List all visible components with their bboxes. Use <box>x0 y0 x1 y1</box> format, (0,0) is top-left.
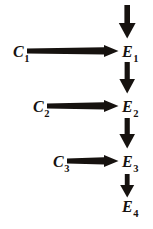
arrow-e2-to-e3 <box>119 118 135 149</box>
node-label-e2: E2 <box>122 99 138 115</box>
node-base-e2: E <box>122 98 133 115</box>
node-base-c2: C <box>33 98 44 115</box>
node-subscript-e4: 4 <box>133 208 138 219</box>
node-base-e4: E <box>122 198 133 215</box>
node-label-c1: C1 <box>13 44 29 60</box>
node-label-e1: E1 <box>122 44 138 60</box>
node-base-e1: E <box>122 43 133 60</box>
node-subscript-e2: 2 <box>133 108 138 119</box>
node-subscript-e1: 1 <box>133 53 138 64</box>
arrow-c1-to-e1 <box>27 45 119 57</box>
node-base-e3: E <box>122 153 133 170</box>
causal-chain-diagram: C1 C2 C3 E1 E2 E3 E4 <box>0 0 153 229</box>
arrow-top-to-e1 <box>119 5 136 39</box>
node-subscript-c1: 1 <box>24 53 29 64</box>
arrow-e3-to-e4 <box>120 174 134 198</box>
arrow-c3-to-e3 <box>67 155 119 167</box>
node-label-e4: E4 <box>122 199 138 215</box>
node-label-c2: C2 <box>33 99 49 115</box>
node-base-c1: C <box>13 43 24 60</box>
node-subscript-c2: 2 <box>44 108 49 119</box>
node-base-c3: C <box>53 153 64 170</box>
node-subscript-e3: 3 <box>133 163 138 174</box>
node-label-c3: C3 <box>53 154 69 170</box>
arrow-c2-to-e2 <box>47 100 119 112</box>
arrow-e1-to-e2 <box>119 62 135 94</box>
node-subscript-c3: 3 <box>64 163 69 174</box>
node-label-e3: E3 <box>122 154 138 170</box>
